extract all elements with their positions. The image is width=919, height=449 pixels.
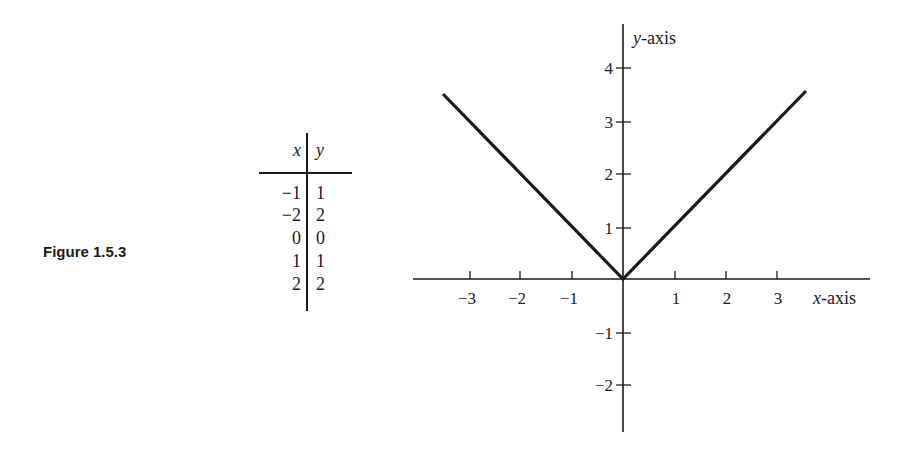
y-tick-label: 4 xyxy=(605,59,614,78)
x-tick-label: −3 xyxy=(458,289,476,308)
x-axis-label: x-axis xyxy=(812,288,856,308)
x-tick-label: −2 xyxy=(508,289,526,308)
x-tick-label: 3 xyxy=(774,289,783,308)
y-tick-label: 2 xyxy=(605,165,614,184)
graph: −3 −2 −1 1 2 3 4 3 2 1 −1 −2 x-axis y-ax… xyxy=(0,0,919,449)
y-tick-label: −2 xyxy=(595,376,613,395)
y-tick-label: 3 xyxy=(605,113,614,132)
x-tick-label: 2 xyxy=(723,289,732,308)
x-tick-label: 1 xyxy=(672,289,681,308)
x-tick-label: −1 xyxy=(560,289,578,308)
y-tick-label: 1 xyxy=(605,219,614,238)
abs-value-curve xyxy=(443,91,806,279)
y-axis-label: y-axis xyxy=(631,28,676,48)
y-tick-label: −1 xyxy=(595,324,613,343)
